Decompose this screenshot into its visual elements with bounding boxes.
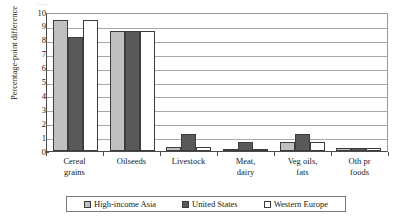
bar[interactable] [366, 148, 381, 151]
bar[interactable] [68, 37, 83, 151]
legend-label: United States [192, 200, 238, 209]
y-tick-label: 7 [30, 50, 46, 59]
bar-group [47, 14, 104, 151]
legend-swatch [182, 201, 189, 208]
bar-group [217, 14, 274, 151]
bar[interactable] [181, 134, 196, 151]
y-axis-title: Percentage-point difference [9, 0, 19, 118]
legend-item[interactable]: United States [182, 200, 238, 209]
y-tick-label: 10 [30, 9, 46, 18]
bar[interactable] [166, 147, 181, 151]
y-tick-label: 5 [30, 78, 46, 87]
legend: High-income AsiaUnited StatesWestern Eur… [66, 196, 346, 212]
legend-item[interactable]: High-income Asia [84, 200, 156, 209]
bar-group [104, 14, 161, 151]
x-tick-mark [388, 152, 389, 156]
x-axis-label-line: Livestock [160, 156, 217, 167]
y-tick-label: 2 [30, 120, 46, 129]
x-axis-label: Veg oils,fats [274, 156, 331, 190]
plot-area [46, 13, 388, 152]
x-axis-label: Livestock [160, 156, 217, 190]
x-axis-label: Oth prfoods [331, 156, 388, 190]
x-axis-label-line: Meat, [217, 156, 274, 167]
bar[interactable] [53, 20, 68, 151]
x-axis-label-line: dairy [217, 167, 274, 178]
y-tick-label: 4 [30, 92, 46, 101]
legend-swatch [84, 201, 91, 208]
bar-group [274, 14, 331, 151]
y-tick-label: 3 [30, 106, 46, 115]
bar[interactable] [310, 142, 325, 151]
y-axis: 109876543210 [24, 13, 46, 152]
legend-item[interactable]: Western Europe [264, 200, 328, 209]
bar[interactable] [253, 149, 268, 151]
bar-group [160, 14, 217, 151]
bar[interactable] [140, 31, 155, 151]
bar[interactable] [238, 142, 253, 151]
bar[interactable] [110, 31, 125, 151]
y-tick-label: 1 [30, 134, 46, 143]
bar-group [330, 14, 387, 151]
bar[interactable] [336, 148, 351, 151]
legend-label: Western Europe [274, 200, 328, 209]
x-axis-label-line: Oth pr [331, 156, 388, 167]
x-axis-label-line: fats [274, 167, 331, 178]
x-axis-label-line: grains [46, 167, 103, 178]
x-axis-label: Oilseeds [103, 156, 160, 190]
bar[interactable] [280, 142, 295, 151]
bar-chart: ···· Percentage-point difference 1098765… [0, 0, 406, 221]
y-tick-label: 8 [30, 36, 46, 45]
bar[interactable] [295, 134, 310, 151]
y-tick-label: 6 [30, 64, 46, 73]
y-tick-label: 9 [30, 22, 46, 31]
legend-label: High-income Asia [94, 200, 156, 209]
bar[interactable] [125, 31, 140, 151]
legend-swatch [264, 201, 271, 208]
x-axis-label-line: Veg oils, [274, 156, 331, 167]
y-tick-label: 0 [30, 148, 46, 157]
cropped-title-remnant: ···· [36, 0, 96, 5]
x-axis-label-line: Cereal [46, 156, 103, 167]
bar[interactable] [83, 20, 98, 151]
bar[interactable] [196, 147, 211, 151]
bar[interactable] [223, 149, 238, 151]
bar[interactable] [351, 148, 366, 151]
x-axis-label: Meat,dairy [217, 156, 274, 190]
bar-groups [47, 14, 387, 151]
x-axis-labels: CerealgrainsOilseedsLivestockMeat,dairyV… [46, 156, 388, 190]
x-axis-label: Cerealgrains [46, 156, 103, 190]
x-axis-label-line: Oilseeds [103, 156, 160, 167]
x-axis-label-line: foods [331, 167, 388, 178]
